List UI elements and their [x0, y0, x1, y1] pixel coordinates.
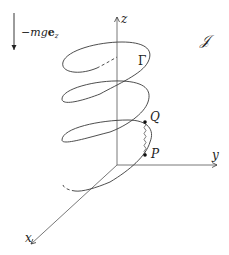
x-axis-label: x: [25, 232, 32, 244]
helix-diagram: −mgez z Γ 𝒥 Q P y x: [0, 0, 229, 255]
point-p-marker: [143, 153, 147, 157]
gravity-label: −mgez: [21, 27, 58, 40]
q-label: Q: [150, 111, 160, 123]
p-label: P: [151, 148, 159, 160]
frame-label: 𝒥: [200, 33, 210, 47]
spring: [144, 123, 146, 155]
point-q-marker: [143, 120, 147, 124]
force-text: −mg: [21, 26, 48, 39]
subscript-z: z: [55, 32, 59, 40]
x-axis: [31, 165, 117, 244]
gamma-label: Γ: [138, 55, 146, 67]
y-axis-label: y: [212, 149, 219, 161]
z-axis-label: z: [121, 13, 127, 25]
unit-vector-e: e: [48, 26, 55, 39]
